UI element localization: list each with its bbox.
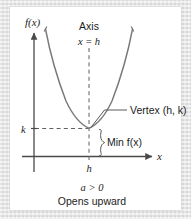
- x-axis-label: x: [156, 150, 162, 162]
- min-value-label: Min f(x): [107, 136, 142, 148]
- x-tick-label-h: h: [86, 163, 91, 174]
- caption-direction: Opens upward: [58, 195, 126, 207]
- y-tick-label-k: k: [21, 124, 26, 135]
- vertex-leader-line: [91, 110, 128, 128]
- figure-root: f(x) x Axis x = h Vertex (h, k) Min f(x)…: [0, 0, 191, 219]
- parabola-diagram: f(x) x Axis x = h Vertex (h, k) Min f(x)…: [0, 0, 191, 219]
- axis-equation-label: x = h: [77, 36, 100, 47]
- y-axis-label: f(x): [25, 16, 41, 29]
- axis-title-label: Axis: [79, 20, 99, 32]
- caption-condition: a > 0: [81, 182, 105, 193]
- min-value-brace: [100, 130, 105, 156]
- vertex-label: Vertex (h, k): [130, 104, 187, 116]
